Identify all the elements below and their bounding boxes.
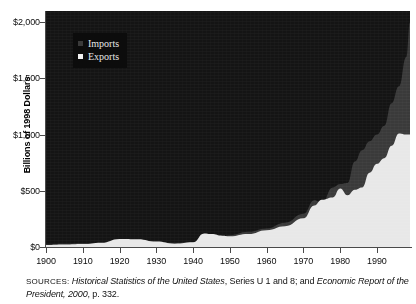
source-prefix: SOURCES: [26,277,69,286]
y-tick-label: $1,000 [0,131,40,140]
x-tick-label: 1930 [136,256,176,266]
x-tick-mark [230,248,231,253]
y-tick-mark [40,191,46,192]
y-tick-mark [40,135,46,136]
x-tick-mark [46,248,47,253]
y-tick-label: $1,500 [0,74,40,83]
x-tick-mark [340,248,341,253]
chart-figure: Imports Exports $0$500$1,000$1,500$2,000… [0,0,416,304]
source-note: SOURCES: Historical Statistics of the Un… [26,275,412,300]
legend-label-exports: Exports [88,51,119,62]
x-tick-label: 1910 [63,256,103,266]
x-tick-mark [377,248,378,253]
x-tick-mark [193,248,194,253]
x-tick-label: 1990 [357,256,397,266]
source-suffix: , p. 332. [88,289,120,299]
x-tick-label: 1920 [100,256,140,266]
x-tick-mark [83,248,84,253]
x-tick-mark [303,248,304,253]
y-tick-mark [40,22,46,23]
source-middle: , Series U 1 and 8; and [225,276,317,286]
x-tick-mark [120,248,121,253]
x-tick-label: 1960 [247,256,287,266]
legend-label-imports: Imports [88,38,119,49]
y-axis-line [45,11,46,248]
y-tick-label: $0 [0,243,40,252]
legend-swatch-exports [78,54,83,59]
legend-swatch-imports [78,41,83,46]
x-axis-line [40,247,412,248]
x-tick-label: 1970 [283,256,323,266]
x-tick-label: 1950 [210,256,250,266]
x-tick-label: 1980 [320,256,360,266]
y-tick-label: $2,000 [0,18,40,27]
y-axis-title: Billions of 1998 Dollars [22,50,32,200]
source-work-1: Historical Statistics of the United Stat… [72,276,225,286]
x-tick-label: 1900 [26,256,66,266]
x-tick-mark [156,248,157,253]
y-tick-label: $500 [0,187,40,196]
y-tick-mark [40,78,46,79]
x-tick-label: 1940 [173,256,213,266]
legend-item-imports[interactable]: Imports [78,37,119,50]
legend-item-exports[interactable]: Exports [78,50,119,63]
plot-area: Imports Exports [46,11,410,247]
x-tick-mark [267,248,268,253]
chart-legend: Imports Exports [73,33,127,68]
